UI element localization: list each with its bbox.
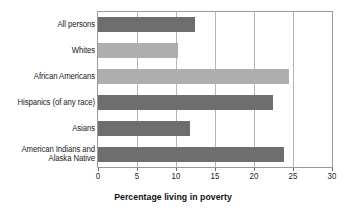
- bars-layer: [98, 12, 332, 167]
- category-label: African Americans: [7, 72, 95, 81]
- x-tick-label: 5: [127, 171, 147, 181]
- x-tick-label: 20: [244, 171, 264, 181]
- x-tick-label: 15: [205, 171, 225, 181]
- category-label: All persons: [7, 20, 95, 29]
- bar: [98, 17, 195, 32]
- category-label: Asians: [7, 124, 95, 133]
- x-tick-label: 10: [166, 171, 186, 181]
- bar: [98, 121, 190, 136]
- bar: [98, 95, 273, 110]
- x-axis-title: Percentage living in poverty: [9, 192, 338, 202]
- x-tick-label: 30: [322, 171, 342, 181]
- poverty-bar-chart: All persons Whites African Americans His…: [0, 0, 346, 213]
- category-label: American Indians and Alaska Native: [7, 145, 95, 164]
- bar: [98, 147, 284, 162]
- category-label: Whites: [7, 46, 95, 55]
- category-axis-labels: All persons Whites African Americans His…: [0, 11, 95, 168]
- x-tick-label: 25: [283, 171, 303, 181]
- bar: [98, 43, 178, 58]
- bar: [98, 69, 289, 84]
- x-tick-label: 0: [88, 171, 108, 181]
- category-label: Hispanics (of any race): [7, 98, 95, 107]
